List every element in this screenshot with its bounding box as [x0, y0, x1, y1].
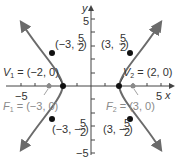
- svg-text:(−3,: (−3,: [55, 38, 74, 50]
- focus-point-right: [131, 84, 136, 89]
- svg-text:(3,: (3,: [101, 38, 114, 50]
- svg-text:(3, −: (3, −: [103, 123, 125, 135]
- svg-text:): ): [83, 38, 87, 50]
- hyperbola-graph: y x 5 −5 −5 5 V1 = (−2, 0) V2 = (2, 0) F…: [0, 0, 177, 158]
- vertex-point-left: [60, 83, 66, 89]
- point-label-3-pos: (3, 5 2 ): [101, 32, 129, 53]
- point-label-neg3-pos: (−3, 5 2 ): [55, 32, 87, 53]
- y-tick-label-5: 5: [83, 15, 89, 27]
- vertex-label-v1: V1 = (−2, 0): [3, 66, 59, 79]
- svg-text:): ): [129, 123, 133, 135]
- vertex-point-right: [116, 83, 122, 89]
- svg-text:): ): [125, 38, 129, 50]
- point-neg3-pos: [49, 50, 55, 56]
- focus-label-f2: F2 = (3, 0): [106, 100, 155, 113]
- y-axis: [91, 8, 95, 155]
- vertex-label-v2: V2 = (2, 0): [123, 66, 172, 79]
- point-3-pos: [127, 50, 133, 56]
- y-tick-label-neg5: −5: [76, 147, 89, 158]
- point-neg3-neg: [49, 116, 55, 122]
- x-tick-label-5: 5: [156, 90, 162, 102]
- svg-text:): ): [85, 123, 89, 135]
- x-axis: [6, 83, 172, 86]
- point-label-3-neg: (3, − 5 2 ): [103, 117, 133, 138]
- focus-point-left: [47, 84, 52, 89]
- focus-label-f1: F1 = (−3, 0): [3, 100, 58, 113]
- x-axis-label: x: [164, 89, 171, 101]
- y-axis-label: y: [81, 2, 89, 14]
- point-label-neg3-neg: (−3, − 5 2 ): [52, 117, 89, 138]
- svg-text:(−3, −: (−3, −: [52, 123, 81, 135]
